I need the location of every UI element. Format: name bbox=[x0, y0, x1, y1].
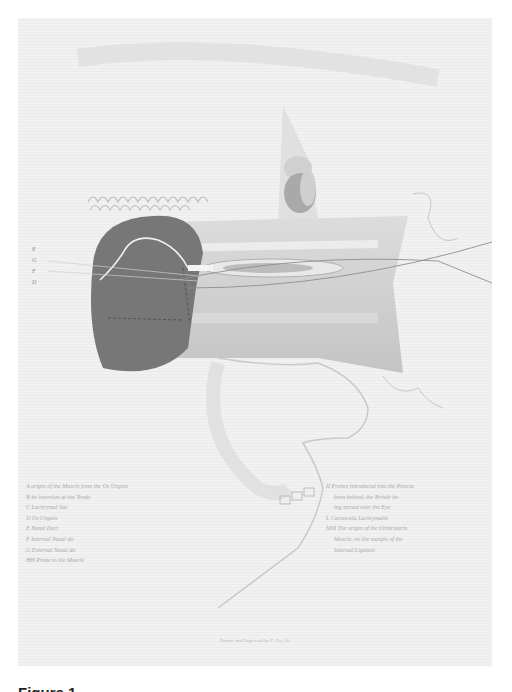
eyebrow-hair bbox=[88, 197, 208, 210]
legend-item: HH Probe in the Muscle bbox=[26, 555, 186, 566]
figure-caption: Figure 1 bbox=[18, 676, 76, 692]
nose-tuft bbox=[284, 156, 316, 213]
legend-right: II Probes introduced into the Puncta fro… bbox=[326, 481, 466, 555]
side-letter: G bbox=[32, 255, 36, 266]
legend-item: Muscle, on the margin of the bbox=[326, 534, 466, 545]
legend-item: G External Nasal do bbox=[26, 545, 186, 556]
legend-item: MM The origin of the Orbicularis bbox=[326, 523, 466, 534]
legend-item: A origin of the Muscle from the Os Ungui… bbox=[26, 481, 186, 492]
legend-item: F Internal Nasal do bbox=[26, 534, 186, 545]
engraving-plate: E G F D A origin of the Muscle from the … bbox=[18, 18, 492, 666]
legend-left: A origin of the Muscle from the Os Ungui… bbox=[26, 481, 186, 566]
legend-item: L Caruncula Lachrymalis bbox=[326, 513, 466, 524]
anatomical-illustration bbox=[18, 18, 492, 666]
legend-item: C Lachrymal Sac bbox=[26, 502, 186, 513]
engraver-credit: Drawn and Engraved by T. Fry, Sc. bbox=[18, 638, 492, 643]
legend-item: B its insertion at the Tendo bbox=[26, 492, 186, 503]
side-letter-labels: E G F D bbox=[32, 244, 36, 288]
legend-item: from behind, the Bristle be- bbox=[326, 492, 466, 503]
side-letter: F bbox=[32, 266, 36, 277]
side-letter: E bbox=[32, 244, 36, 255]
side-letter: D bbox=[32, 277, 36, 288]
legend-item: D Os Unguis bbox=[26, 513, 186, 524]
legend-item: E Nasal Duct bbox=[26, 523, 186, 534]
legend-item: ing turned over the Eye bbox=[326, 502, 466, 513]
legend-item: Internal Ligature bbox=[326, 545, 466, 556]
legend-item: II Probes introduced into the Puncta bbox=[326, 481, 466, 492]
